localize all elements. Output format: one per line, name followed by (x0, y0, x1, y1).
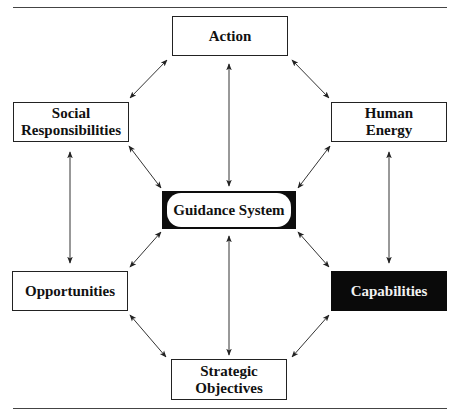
arrow-opportunities-strategic (130, 315, 166, 357)
node-capabilities-label: Capabilities (351, 283, 428, 300)
arrow-action-human (292, 60, 329, 98)
node-action: Action (172, 16, 288, 56)
arrow-human-guidance (298, 146, 330, 188)
node-strategic-label-line2: Objectives (195, 380, 262, 397)
node-social-label-line2: Responsibilities (21, 122, 121, 139)
node-social-label-line1: Social (52, 105, 90, 122)
node-strategic-objectives: Strategic Objectives (171, 359, 287, 400)
arrow-social-guidance (129, 146, 161, 188)
arrow-opportunities-guidance (130, 232, 161, 267)
node-human-label-line2: Energy (366, 122, 413, 139)
node-human-energy: Human Energy (331, 102, 447, 142)
arrow-capabilities-guidance (298, 232, 329, 267)
node-guidance-system: Guidance System (162, 191, 296, 229)
arrow-action-social (130, 60, 167, 98)
node-strategic-label-line1: Strategic (200, 363, 257, 380)
arrow-capabilities-strategic (292, 315, 329, 357)
node-opportunities: Opportunities (12, 271, 128, 311)
node-capabilities: Capabilities (331, 271, 447, 311)
node-human-label-line1: Human (365, 105, 413, 122)
node-action-label: Action (209, 28, 252, 45)
node-guidance-label: Guidance System (173, 202, 284, 219)
node-guidance-inner: Guidance System (167, 193, 291, 227)
node-opportunities-label: Opportunities (25, 283, 115, 300)
node-social-responsibilities: Social Responsibilities (13, 102, 129, 142)
